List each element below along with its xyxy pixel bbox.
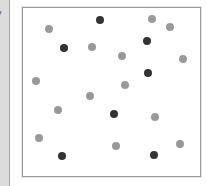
scatter-point-light: [88, 43, 96, 51]
scatter-point-light: [151, 113, 159, 121]
scatter-point-dark: [58, 152, 66, 160]
scatter-point-dark: [150, 151, 158, 159]
scatter-point-light: [112, 142, 120, 150]
scatter-point-dark: [144, 69, 152, 77]
scatter-point-light: [32, 77, 40, 85]
scatter-point-light: [179, 55, 187, 63]
scatter-point-dark: [110, 110, 118, 118]
scatter-point-dark: [96, 16, 104, 24]
scatter-point-light: [118, 52, 126, 60]
scatter-point-light: [148, 15, 156, 23]
scatter-point-light: [35, 134, 43, 142]
scatter-plot-area: [22, 7, 201, 177]
scatter-point-light: [54, 106, 62, 114]
scatter-point-light: [121, 81, 129, 89]
scatter-point-light: [45, 25, 53, 33]
scatter-point-dark: [143, 37, 151, 45]
side-panel: y: [0, 0, 10, 186]
side-panel-text-fragment: y: [0, 8, 2, 19]
scatter-point-light: [86, 92, 94, 100]
scatter-point-light: [166, 23, 174, 31]
scatter-point-light: [176, 140, 184, 148]
scatter-point-dark: [60, 44, 68, 52]
